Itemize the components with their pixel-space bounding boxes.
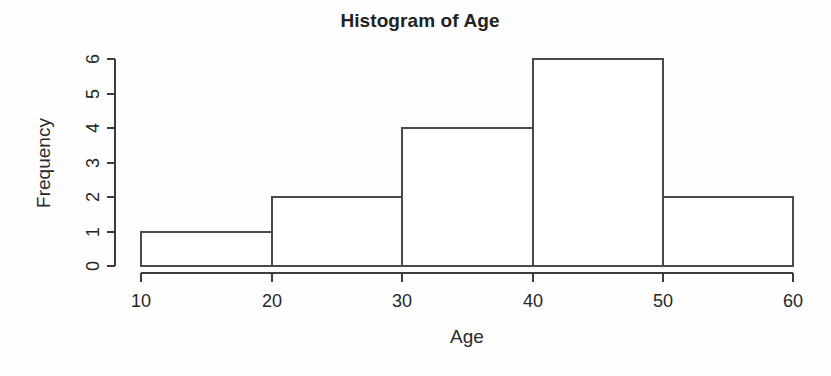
histogram-bar-20-30 — [272, 197, 402, 266]
histogram-canvas: Histogram of Age 6 5 4 3 2 1 0 Frequency — [0, 0, 831, 376]
histogram-bar-10-20 — [141, 232, 272, 266]
x-tick-label-10: 10 — [131, 291, 151, 311]
y-axis-title: Frequency — [33, 118, 54, 208]
y-tick-label-3: 3 — [83, 158, 103, 168]
chart-title: Histogram of Age — [340, 10, 499, 31]
y-tick-label-1: 1 — [83, 227, 103, 237]
x-tick-label-20: 20 — [262, 291, 282, 311]
histogram-bar-30-40 — [402, 128, 533, 266]
y-tick-label-2: 2 — [83, 192, 103, 202]
histogram-plot-root: Histogram of Age 6 5 4 3 2 1 0 Frequency — [0, 0, 831, 376]
x-axis-title: Age — [450, 326, 484, 347]
x-tick-label-30: 30 — [392, 291, 412, 311]
x-tick-label-40: 40 — [523, 291, 543, 311]
x-tick-label-50: 50 — [653, 291, 673, 311]
y-tick-label-0: 0 — [83, 261, 103, 271]
x-tick-label-60: 60 — [783, 291, 803, 311]
y-tick-label-6: 6 — [83, 54, 103, 64]
y-tick-label-4: 4 — [83, 123, 103, 133]
histogram-bar-40-50 — [533, 59, 663, 266]
y-tick-label-5: 5 — [83, 89, 103, 99]
histogram-bar-50-60 — [663, 197, 793, 266]
